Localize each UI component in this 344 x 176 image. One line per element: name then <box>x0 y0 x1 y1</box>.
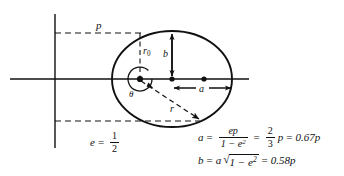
ellipse-conic-figure: p r0 b a r θ e = 1 2 a = ep 1 − e2 = 2 3 <box>0 0 344 176</box>
eq-a-ratio-numerator: 2 <box>266 126 275 137</box>
eq-b-radicand: 1 − e2 <box>229 154 259 168</box>
equation-semi-major-axis: a = ep 1 − e2 = 2 3 p = 0.67p <box>198 126 320 150</box>
eq-e-lhs: e <box>90 137 95 148</box>
eq-a-result: 0.67p <box>296 132 321 143</box>
label-b: b <box>163 49 168 59</box>
eq-a-frac-numerator: ep <box>226 126 240 137</box>
eq-a-equals-2: = <box>254 132 260 143</box>
eq-a-equals-3: = <box>286 132 292 143</box>
eq-a-denom-exponent: 2 <box>242 138 245 145</box>
eq-a-lhs: a <box>198 132 204 143</box>
eq-b-radicand-exponent: 2 <box>253 155 257 164</box>
eq-e-denominator: 2 <box>110 142 119 154</box>
right-focus-dot <box>201 76 206 81</box>
label-r0-subscript: 0 <box>147 50 151 58</box>
eq-b-result: 0.58p <box>271 155 296 166</box>
eq-a-ratio-variable: p <box>278 132 284 143</box>
eq-a-ratio: 2 3 <box>266 126 275 149</box>
eq-b-coefficient: a <box>216 155 222 166</box>
eq-e-fraction: 1 2 <box>110 131 119 154</box>
label-r: r <box>170 104 174 114</box>
equation-eccentricity: e = 1 2 <box>90 131 122 154</box>
eq-e-equals: = <box>98 137 104 148</box>
label-a: a <box>199 84 204 94</box>
eq-a-fraction: ep 1 − e2 <box>219 126 248 150</box>
left-focus-dot <box>137 76 143 82</box>
eq-a-frac-denominator: 1 − e2 <box>219 137 248 150</box>
eq-b-lhs: b <box>198 155 204 166</box>
eq-b-radicand-base: 1 − e <box>230 156 253 168</box>
eq-a-equals-1: = <box>207 132 213 143</box>
label-p: p <box>96 20 102 31</box>
eq-b-equals-2: = <box>262 155 268 166</box>
equation-semi-minor-axis: b = a √ 1 − e2 = 0.58p <box>198 154 296 168</box>
eq-a-denom-base: 1 − e <box>221 139 242 150</box>
eq-b-radical: √ 1 − e2 <box>223 154 258 168</box>
eq-e-numerator: 1 <box>110 131 119 142</box>
label-r0: r0 <box>143 46 151 58</box>
eq-b-equals-1: = <box>207 155 213 166</box>
eq-a-ratio-denominator: 3 <box>266 137 275 149</box>
ellipse-center-dot <box>169 76 174 81</box>
label-theta: θ <box>129 90 133 99</box>
